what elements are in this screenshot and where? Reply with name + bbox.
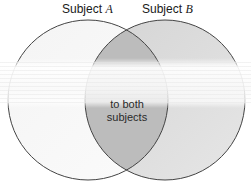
label-subject-a: Subject A bbox=[62, 2, 113, 17]
overlap-text-line1: to both bbox=[97, 98, 157, 111]
label-b-var: B bbox=[185, 2, 192, 16]
label-b-text: Subject bbox=[142, 2, 182, 16]
overlap-text-line2: subjects bbox=[97, 111, 157, 124]
label-subject-b: Subject B bbox=[142, 2, 193, 17]
overlap-text: to both subjects bbox=[97, 98, 157, 124]
label-a-var: A bbox=[105, 2, 112, 16]
label-a-text: Subject bbox=[62, 2, 102, 16]
